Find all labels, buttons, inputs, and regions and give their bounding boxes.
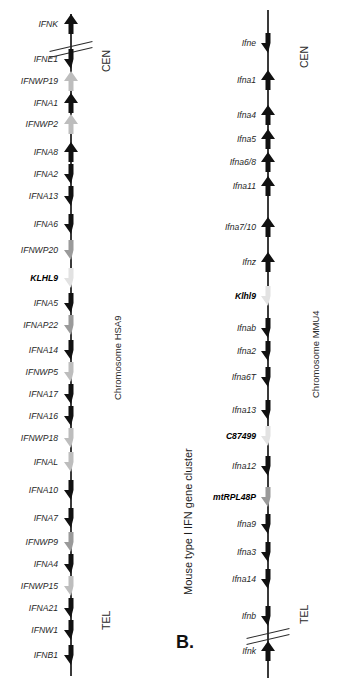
gene-label-ifnwp20: IFNWP20 [0, 245, 58, 255]
gene-arrow-ifna2 [60, 163, 82, 185]
chromosome-label-human: Chromosome HSA9 [112, 316, 123, 400]
gene-arrow-ifna9 [257, 513, 279, 535]
gene-label-klhl9: Klhl9 [176, 291, 256, 301]
gene-arrow-ifna7 [60, 507, 82, 529]
gene-label-ifnwp2: IFNWP2 [0, 119, 58, 129]
gene-arrow-ifnwp19 [60, 70, 82, 92]
gene-label-ifne1: IFNE1 [0, 54, 58, 64]
gene-arrow-ifna21 [60, 597, 82, 619]
gene-label-ifnwp18: IFNWP18 [0, 433, 58, 443]
gene-label-ifna2: Ifna2 [176, 346, 256, 356]
centromere-label-mouse: CEN [298, 46, 310, 68]
gene-arrow-ifna7-10 [257, 216, 279, 238]
gene-label-ifna17: IFNA17 [0, 389, 58, 399]
gene-label-ifna16: IFNA16 [0, 411, 58, 421]
gene-label-ifnwp5: IFNWP5 [0, 367, 58, 377]
gene-label-ifna4: IFNA4 [0, 559, 58, 569]
gene-arrow-ifnwp2 [60, 113, 82, 135]
centromere-label-human: CEN [100, 50, 112, 72]
gene-arrow-ifnap22 [60, 314, 82, 336]
gene-label-ifnk: IFNK [0, 19, 58, 29]
panel-human-ifn-cluster: CEN TEL Chromosome HSA9 IFNKIFNE1IFNWP19… [0, 0, 170, 689]
gene-arrow-ifna1 [257, 69, 279, 91]
gene-arrow-ifnwp9 [60, 531, 82, 553]
gene-label-ifna13: Ifna13 [176, 405, 256, 415]
gene-label-ifna6t: Ifna6T [176, 372, 256, 382]
gene-label-ifnwp19: IFNWP19 [0, 76, 58, 86]
gene-label-klhl9: KLHL9 [0, 273, 58, 283]
gene-label-ifna4: Ifna4 [176, 110, 256, 120]
gene-arrow-ifna3 [257, 541, 279, 563]
gene-label-ifna1: Ifna1 [176, 75, 256, 85]
gene-label-ifna6-8: Ifna6/8 [176, 157, 256, 167]
gene-arrow-ifna5 [257, 128, 279, 150]
gene-arrow-ifna5 [60, 292, 82, 314]
gene-label-ifna14: IFNA14 [0, 345, 58, 355]
gene-label-ifna11: Ifna11 [176, 181, 256, 191]
gene-arrow-ifna1 [60, 92, 82, 114]
gene-arrow-ifna6t [257, 366, 279, 388]
gene-label-ifna5: IFNA5 [0, 298, 58, 308]
gene-arrow-ifna13 [60, 185, 82, 207]
gene-arrow-c87499 [257, 425, 279, 447]
gene-label-ifnwp9: IFNWP9 [0, 537, 58, 547]
gene-label-ifna8: IFNA8 [0, 147, 58, 157]
gene-arrow-ifnwp18 [60, 427, 82, 449]
gene-arrow-ifna6-8 [257, 151, 279, 173]
gene-label-ifna7: IFNA7 [0, 513, 58, 523]
gene-label-ifna10: IFNA10 [0, 485, 58, 495]
gene-arrow-ifnw1 [60, 619, 82, 641]
gene-arrow-ifna8 [60, 141, 82, 163]
gene-label-ifnw1: IFNW1 [0, 625, 58, 635]
gene-arrow-ifnz [257, 251, 279, 273]
gene-arrow-ifnab [257, 317, 279, 339]
gene-label-ifnal: IFNAL [0, 457, 58, 467]
gene-arrow-ifna2 [257, 340, 279, 362]
gene-arrow-ifnb1 [60, 644, 82, 666]
gene-label-ifnz: Ifnz [176, 257, 256, 267]
gene-label-ifna7-10: Ifna7/10 [176, 222, 256, 232]
gene-label-ifna21: IFNA21 [0, 603, 58, 613]
gene-arrow-ifnb [257, 605, 279, 627]
gene-label-ifna6: IFNA6 [0, 219, 58, 229]
gene-label-ifnb: Ifnb [176, 611, 256, 621]
gene-label-ifnab: Ifnab [176, 323, 256, 333]
gene-label-ifna13: IFNA13 [0, 191, 58, 201]
gene-arrow-klhl9 [257, 285, 279, 307]
gene-label-ifnwp15: IFNWP15 [0, 581, 58, 591]
telomere-label-human: TEL [100, 611, 112, 630]
gene-arrow-ifna17 [60, 383, 82, 405]
gene-label-c87499: C87499 [176, 431, 256, 441]
telomere-label-mouse: TEL [298, 605, 310, 624]
panel-letter-b: B. [176, 632, 194, 653]
gene-arrow-ifna12 [257, 455, 279, 477]
gene-arrow-ifnk [257, 640, 279, 662]
gene-arrow-ifne [257, 32, 279, 54]
gene-arrow-mtrpl48p [257, 486, 279, 508]
gene-arrow-klhl9 [60, 267, 82, 289]
gene-label-ifnb1: IFNB1 [0, 650, 58, 660]
gene-arrow-ifna14 [60, 339, 82, 361]
gene-arrow-ifna10 [60, 479, 82, 501]
gene-arrow-ifnk [60, 13, 82, 35]
gene-arrow-ifnwp15 [60, 575, 82, 597]
gene-arrow-ifna6 [60, 213, 82, 235]
gene-arrow-ifna14 [257, 568, 279, 590]
gene-label-ifna5: Ifna5 [176, 134, 256, 144]
cluster-title-mouse: Mouse type I IFN gene cluster [182, 448, 194, 595]
gene-arrow-ifna4 [60, 553, 82, 575]
gene-arrow-ifna4 [257, 104, 279, 126]
gene-arrow-ifne1 [60, 48, 82, 70]
gene-label-ifna1: IFNA1 [0, 98, 58, 108]
gene-arrow-ifna13 [257, 399, 279, 421]
gene-label-ifna2: IFNA2 [0, 169, 58, 179]
chromosome-label-mouse: Chromosome MMU4 [310, 310, 321, 398]
gene-arrow-ifnwp5 [60, 361, 82, 383]
gene-arrow-ifnwp20 [60, 239, 82, 261]
gene-label-ifne: Ifne [176, 38, 256, 48]
gene-arrow-ifna11 [257, 175, 279, 197]
gene-arrow-ifnal [60, 451, 82, 473]
gene-label-ifnap22: IFNAP22 [0, 320, 58, 330]
gene-arrow-ifna16 [60, 405, 82, 427]
